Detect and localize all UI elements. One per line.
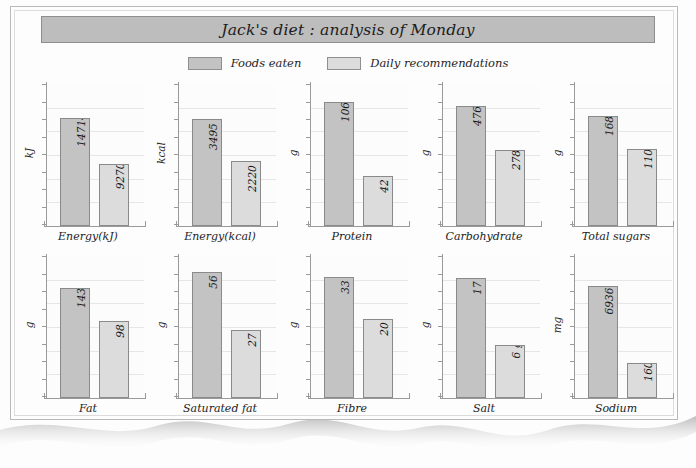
x-axis-endcap-right <box>277 393 278 399</box>
bar-foods-eaten[interactable]: 106 g <box>324 102 354 226</box>
chart-panel-energy-kj: kJ14714 kJ9270 kJEnergy(kJ) <box>18 80 150 250</box>
x-axis-line <box>440 398 542 399</box>
bar-group: 17 g6 g <box>443 256 540 398</box>
plot-area: 33 g20 g <box>310 256 408 398</box>
bar-foods-eaten[interactable]: 143 g <box>60 288 90 398</box>
bar-daily-recommendations[interactable]: 110 g <box>627 149 657 226</box>
legend: Foods eaten Daily recommendations <box>0 52 696 74</box>
legend-entry-foods-eaten: Foods eaten <box>188 56 302 70</box>
x-axis-category-label: Fat <box>28 402 148 415</box>
y-axis-unit-text: g <box>155 322 167 329</box>
bar-foods-eaten[interactable]: 33 g <box>324 277 354 398</box>
y-axis-unit-text: g <box>287 322 299 329</box>
x-axis-endcap-right <box>145 393 146 399</box>
y-axis-unit-label: g <box>416 252 434 398</box>
bar-group: 14714 kJ9270 kJ <box>47 84 144 226</box>
bar-value-label: 1600 mg <box>642 363 654 382</box>
bar-daily-recommendations[interactable]: 42 g <box>363 176 393 226</box>
bar-value-label: 27 g <box>246 330 258 347</box>
x-axis-line <box>176 398 278 399</box>
y-axis-unit-label: kJ <box>20 80 38 226</box>
bar-daily-recommendations[interactable]: 9270 kJ <box>99 164 129 226</box>
bar-value-label: 143 g <box>75 288 87 308</box>
x-axis-endcap-left <box>308 221 309 227</box>
bar-daily-recommendations[interactable]: 98 g <box>99 321 129 398</box>
chart-panel-carbohydrate: g476 g278 gCarbohydrate <box>414 80 546 250</box>
chart-panel-protein: g106 g42 gProtein <box>282 80 414 250</box>
bar-daily-recommendations[interactable]: 20 g <box>363 319 393 398</box>
x-axis-category-label: Protein <box>292 230 412 243</box>
bar-value-label: 278 g <box>510 150 522 170</box>
bar-value-label: 110 g <box>642 149 654 169</box>
y-axis-unit-text: mg <box>551 317 563 334</box>
x-axis-endcap-left <box>44 221 45 227</box>
bar-value-label: 42 g <box>378 176 390 193</box>
x-axis-line <box>440 226 542 227</box>
bar-foods-eaten[interactable]: 17 g <box>456 278 486 398</box>
x-axis-endcap-left <box>440 393 441 399</box>
plot-area: 14714 kJ9270 kJ <box>46 84 144 226</box>
bar-daily-recommendations[interactable]: 1600 mg <box>627 363 657 398</box>
x-axis-endcap-right <box>541 393 542 399</box>
x-axis-endcap-right <box>409 393 410 399</box>
x-axis-category-label: Energy(kcal) <box>160 230 280 243</box>
y-axis-unit-text: g <box>419 150 431 157</box>
chart-panel-total-sugars: g168 g110 gTotal sugars <box>546 80 678 250</box>
bar-foods-eaten[interactable]: 3495 kcal <box>192 119 222 226</box>
x-axis-line <box>44 226 146 227</box>
x-axis-endcap-left <box>440 221 441 227</box>
bar-foods-eaten[interactable]: 14714 kJ <box>60 118 90 226</box>
bar-value-label: 6 g <box>510 345 522 358</box>
chart-row-top: kJ14714 kJ9270 kJEnergy(kJ)kcal3495 kcal… <box>18 80 678 250</box>
bar-group: 6936 mg1600 mg <box>575 256 672 398</box>
x-axis-line <box>572 226 674 227</box>
y-axis-unit-label: g <box>548 80 566 226</box>
chart-panel-fat: g143 g98 gFat <box>18 252 150 422</box>
bar-group: 168 g110 g <box>575 84 672 226</box>
bar-value-label: 2220 kcal <box>246 161 258 192</box>
bar-value-label: 168 g <box>603 116 615 136</box>
x-axis-category-label: Salt <box>424 402 544 415</box>
bar-value-label: 33 g <box>339 277 351 294</box>
x-axis-category-label: Total sugars <box>556 230 676 243</box>
x-axis-line <box>308 398 410 399</box>
plot-area: 17 g6 g <box>442 256 540 398</box>
chart-row-bottom: g143 g98 gFatg56 g27 gSaturated fatg33 g… <box>18 252 678 422</box>
bar-value-label: 20 g <box>378 319 390 336</box>
legend-swatch-foods-eaten <box>188 57 222 70</box>
x-axis-endcap-left <box>176 393 177 399</box>
x-axis-endcap-left <box>308 393 309 399</box>
chart-panel-grid: kJ14714 kJ9270 kJEnergy(kJ)kcal3495 kcal… <box>18 80 678 420</box>
x-axis-line <box>572 398 674 399</box>
plot-area: 6936 mg1600 mg <box>574 256 672 398</box>
plot-area: 168 g110 g <box>574 84 672 226</box>
x-axis-line <box>308 226 410 227</box>
legend-label-foods-eaten: Foods eaten <box>231 56 302 70</box>
chart-panel-sodium: mg6936 mg1600 mgSodium <box>546 252 678 422</box>
y-axis-unit-label: g <box>284 252 302 398</box>
plot-area: 3495 kcal2220 kcal <box>178 84 276 226</box>
bar-daily-recommendations[interactable]: 6 g <box>495 345 525 398</box>
bar-foods-eaten[interactable]: 476 g <box>456 106 486 226</box>
x-axis-endcap-left <box>176 221 177 227</box>
bar-foods-eaten[interactable]: 168 g <box>588 116 618 226</box>
x-axis-endcap-left <box>44 393 45 399</box>
x-axis-endcap-left <box>572 393 573 399</box>
bar-foods-eaten[interactable]: 6936 mg <box>588 286 618 398</box>
y-axis-unit-label: mg <box>548 252 566 398</box>
y-axis-unit-text: g <box>419 322 431 329</box>
figure-title-banner: Jack's diet : analysis of Monday <box>41 16 655 43</box>
x-axis-category-label: Carbohydrate <box>424 230 544 243</box>
bar-value-label: 17 g <box>471 278 483 295</box>
y-axis-unit-text: g <box>23 322 35 329</box>
bar-value-label: 14714 kJ <box>75 118 87 147</box>
x-axis-endcap-right <box>145 221 146 227</box>
x-axis-line <box>44 398 146 399</box>
plot-area: 56 g27 g <box>178 256 276 398</box>
bar-daily-recommendations[interactable]: 278 g <box>495 150 525 226</box>
legend-entry-daily-recommendations: Daily recommendations <box>327 56 508 70</box>
bar-foods-eaten[interactable]: 56 g <box>192 272 222 398</box>
bar-daily-recommendations[interactable]: 2220 kcal <box>231 161 261 226</box>
bar-daily-recommendations[interactable]: 27 g <box>231 330 261 398</box>
y-axis-unit-label: kcal <box>152 80 170 226</box>
